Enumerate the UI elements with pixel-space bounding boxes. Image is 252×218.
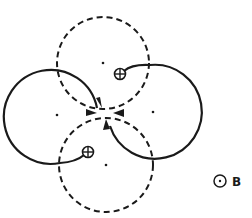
field-label: B — [232, 175, 241, 189]
arrowhead-from-left — [86, 109, 97, 116]
arrowhead-from-right — [113, 109, 124, 117]
arrowhead-from-bottom — [103, 119, 110, 130]
trajectory-diagram: B — [0, 0, 252, 218]
right-center-dot — [152, 111, 155, 114]
top-center-dot — [102, 62, 105, 65]
left-center-dot — [56, 114, 59, 117]
magnetic-field-legend: B — [214, 175, 241, 189]
bottom-center-dot — [105, 164, 108, 167]
positive-particle-upper — [115, 69, 126, 80]
positive-particle-lower — [83, 147, 94, 158]
field-dot — [219, 180, 221, 182]
